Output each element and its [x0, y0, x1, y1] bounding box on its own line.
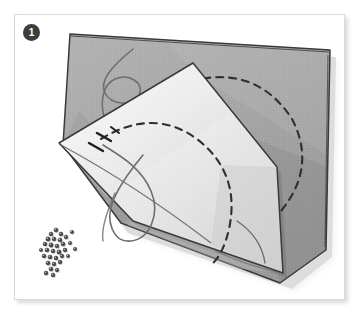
bead: [73, 247, 77, 251]
bead: [61, 242, 65, 246]
bead: [46, 237, 50, 241]
bead: [46, 261, 50, 265]
bead: [63, 248, 67, 252]
bead: [59, 232, 63, 236]
bead: [44, 271, 48, 275]
bead: [58, 260, 62, 264]
bead: [54, 256, 58, 260]
bead: [51, 249, 55, 253]
illustration-root: 1: [0, 0, 362, 313]
step-number-badge: 1: [23, 24, 40, 41]
bead: [49, 232, 53, 236]
bead: [45, 248, 49, 252]
bead: [49, 243, 53, 247]
bead: [51, 273, 55, 277]
bead-pile: [39, 228, 77, 278]
bead: [57, 250, 61, 254]
bead: [66, 254, 69, 257]
bead: [43, 242, 47, 246]
bead: [55, 268, 59, 272]
bead: [49, 267, 53, 271]
figure-frame: 1: [14, 14, 345, 300]
bead: [39, 248, 42, 251]
bead: [58, 238, 62, 242]
bead: [55, 244, 59, 248]
bead: [52, 262, 56, 266]
scene-illustration: [15, 15, 345, 300]
bead: [70, 230, 74, 234]
bead: [42, 254, 46, 258]
bead: [52, 237, 56, 241]
bead: [64, 235, 68, 239]
bead: [54, 228, 58, 232]
bead: [68, 241, 72, 245]
bead: [60, 254, 64, 258]
bead: [48, 255, 52, 259]
